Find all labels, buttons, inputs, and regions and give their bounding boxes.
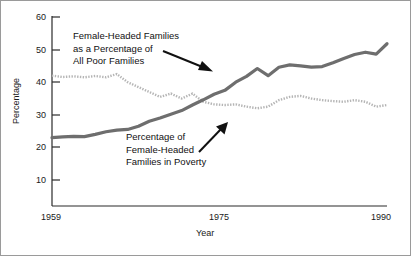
y-tick-label-60: 60 (18, 12, 46, 22)
x-tick-label-1975: 1975 (209, 212, 229, 222)
y-tick-label-30: 30 (18, 110, 46, 120)
x-tick-label-1959: 1959 (41, 212, 61, 222)
annotation-poverty-line-1: Percentage of (126, 131, 206, 144)
annotation-share-line-2: as a Percentage of (73, 43, 179, 56)
y-tick-label-50: 50 (18, 45, 46, 55)
y-tick-label-10: 10 (18, 175, 46, 185)
annotation-poverty-line-3: Families in Poverty (126, 156, 206, 169)
annotation-share-line-3: All Poor Families (73, 55, 179, 68)
y-tick-label-40: 40 (18, 77, 46, 87)
annotation-poverty-rate: Percentage of Female-Headed Families in … (126, 131, 206, 169)
annotation-share-line-1: Female-Headed Families (73, 30, 179, 43)
annotation-poverty-line-2: Female-Headed (126, 144, 206, 157)
y-tick-label-20: 20 (18, 142, 46, 152)
chart-figure: 60 50 40 30 20 10 1959 1975 1990 Percent… (0, 0, 412, 257)
line-chart-plot (0, 0, 412, 257)
x-tick-label-1990: 1990 (371, 212, 391, 222)
y-axis-ticks (52, 17, 60, 180)
y-axis-title: Percentage (11, 61, 21, 141)
annotation-share-of-poor-families: Female-Headed Families as a Percentage o… (73, 30, 179, 68)
x-axis-title: Year (196, 228, 214, 238)
